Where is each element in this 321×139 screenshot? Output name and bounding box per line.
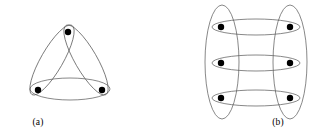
hyperedge-bottom bbox=[30, 78, 110, 100]
figure-root: (a) (b) bbox=[0, 0, 321, 139]
vertex-row2-left bbox=[218, 60, 224, 66]
vertex-bottom-left bbox=[35, 87, 41, 93]
vertex-row1-right bbox=[287, 24, 293, 30]
hyperedge-row-middle bbox=[212, 55, 300, 71]
panel-a-caption: (a) bbox=[0, 117, 118, 128]
hypergraph-diagram-b bbox=[161, 0, 321, 125]
hyperedge-row-bottom bbox=[212, 90, 300, 106]
vertex-group-a bbox=[35, 29, 105, 93]
hyperedge-row-top bbox=[212, 19, 300, 35]
panel-a: (a) bbox=[0, 0, 160, 139]
hypergraph-diagram-a bbox=[0, 0, 160, 115]
vertex-row1-left bbox=[218, 24, 224, 30]
vertex-row3-left bbox=[218, 95, 224, 101]
vertex-row2-right bbox=[287, 60, 293, 66]
vertex-top bbox=[65, 29, 71, 35]
vertex-row3-right bbox=[287, 95, 293, 101]
panel-b-caption: (b) bbox=[198, 117, 321, 128]
panel-b: (b) bbox=[161, 0, 321, 139]
hyperedge-left bbox=[22, 20, 81, 100]
vertex-group-b bbox=[218, 24, 293, 101]
vertex-bottom-right bbox=[99, 87, 105, 93]
